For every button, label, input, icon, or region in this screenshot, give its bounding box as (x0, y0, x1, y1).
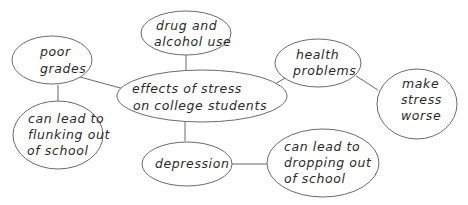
node-central-effects-of-stress: effects of stress on college students (117, 70, 287, 122)
node-dropping-out: can lead to dropping out of school (267, 129, 379, 197)
svg-text:of school: of school (284, 171, 346, 186)
svg-text:problems: problems (292, 63, 356, 78)
svg-text:alcohol use: alcohol use (154, 34, 231, 49)
svg-text:can lead to: can lead to (284, 139, 360, 154)
svg-text:can lead to: can lead to (28, 111, 104, 126)
node-health-problems: health problems (275, 39, 361, 87)
svg-text:drug and: drug and (156, 18, 217, 33)
svg-text:on college students: on college students (133, 98, 267, 113)
svg-text:poor: poor (39, 44, 71, 59)
svg-text:grades: grades (40, 61, 86, 76)
node-depression: depression (142, 142, 232, 186)
svg-text:stress: stress (401, 92, 442, 107)
edge-center-grades (80, 77, 124, 89)
node-make-stress-worse: make stress worse (377, 69, 457, 139)
node-flunking-out: can lead to flunking out of school (13, 101, 110, 169)
svg-text:dropping out: dropping out (284, 155, 372, 170)
svg-text:of school: of school (27, 143, 89, 158)
svg-text:depression: depression (155, 156, 229, 171)
svg-text:effects of stress: effects of stress (132, 81, 242, 96)
node-poor-grades: poor grades (12, 36, 92, 84)
node-drug-and-alcohol-use: drug and alcohol use (141, 11, 231, 55)
svg-text:health: health (296, 47, 339, 62)
svg-text:flunking out: flunking out (28, 127, 110, 142)
svg-text:make: make (402, 76, 439, 91)
concept-map: drug and alcohol use poor grades effects… (0, 0, 468, 205)
svg-text:worse: worse (401, 108, 441, 123)
edge-health-worse (356, 76, 378, 90)
